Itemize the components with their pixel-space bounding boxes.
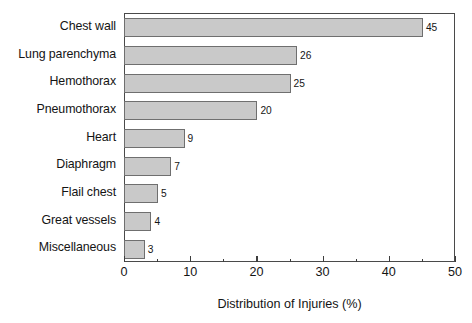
y-axis-tick-label: Great vessels <box>42 207 116 235</box>
bar <box>124 18 423 37</box>
x-axis-tick-labels: 01020304050 <box>124 265 455 283</box>
bar <box>124 157 171 176</box>
bar-row: 5 <box>125 180 454 208</box>
x-axis-tick-label: 10 <box>183 265 197 279</box>
y-axis-tick-label: Miscellaneous <box>39 234 116 262</box>
bar <box>124 129 185 148</box>
y-axis-category-labels: Chest wallLung parenchymaHemothoraxPneum… <box>0 13 120 262</box>
bar <box>124 240 145 259</box>
bar-chart-figure: Chest wallLung parenchymaHemothoraxPneum… <box>0 0 472 323</box>
bar-value-label: 7 <box>171 157 180 176</box>
bar-value-label: 3 <box>145 240 154 259</box>
y-axis-tick-label: Lung parenchyma <box>18 41 116 69</box>
plot-area: 4526252097543 <box>124 13 455 262</box>
bar <box>124 46 297 65</box>
bar-row: 45 <box>125 14 454 42</box>
x-axis-tick-label: 30 <box>316 265 330 279</box>
y-axis-tick-label: Hemothorax <box>50 68 117 96</box>
bar-value-label: 26 <box>297 46 311 65</box>
bar-row: 7 <box>125 152 454 180</box>
bar-value-label: 45 <box>423 18 437 37</box>
x-axis-tick-label: 50 <box>448 265 462 279</box>
bar-value-label: 4 <box>151 212 160 231</box>
x-axis-tick-label: 40 <box>382 265 396 279</box>
bar-row: 25 <box>125 69 454 97</box>
bar <box>124 184 158 203</box>
bar-value-label: 5 <box>158 184 167 203</box>
x-axis-title: Distribution of Injuries (%) <box>124 297 455 311</box>
x-axis-tick-label: 0 <box>120 265 127 279</box>
x-axis-tick-label: 20 <box>249 265 263 279</box>
y-axis-tick-label: Heart <box>86 124 116 152</box>
bar <box>124 101 257 120</box>
y-axis-tick-label: Diaphragm <box>56 151 116 179</box>
bar-series: 4526252097543 <box>125 14 454 261</box>
bar-row: 4 <box>125 208 454 236</box>
bar-row: 3 <box>125 235 454 263</box>
bar <box>124 74 291 93</box>
y-axis-tick-label: Pneumothorax <box>37 96 116 124</box>
bar-row: 26 <box>125 42 454 70</box>
bar <box>124 212 151 231</box>
bar-row: 9 <box>125 125 454 153</box>
y-axis-tick-label: Flail chest <box>61 179 116 207</box>
bar-value-label: 9 <box>185 129 194 148</box>
y-axis-tick-label: Chest wall <box>60 13 116 41</box>
bar-value-label: 20 <box>257 101 271 120</box>
x-axis-major-tick <box>455 256 456 262</box>
bar-row: 20 <box>125 97 454 125</box>
bar-value-label: 25 <box>291 74 305 93</box>
